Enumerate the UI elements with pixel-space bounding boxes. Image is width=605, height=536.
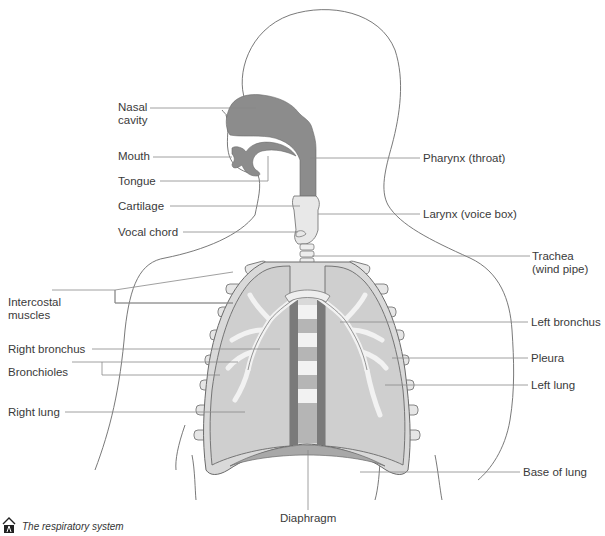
label-trachea-line2: (wind pipe) (532, 263, 588, 276)
label-nasal-line1: Nasal (118, 101, 147, 114)
label-intercostal-muscles: Intercostal muscles (8, 296, 61, 322)
label-left-lung: Left lung (531, 379, 575, 392)
publisher-logo-icon (2, 516, 16, 534)
label-right-bronchus: Right bronchus (8, 343, 85, 356)
label-left-bronchus: Left bronchus (531, 316, 601, 329)
figure-caption: The respiratory system (22, 521, 124, 532)
label-intercostal-line1: Intercostal (8, 296, 61, 309)
label-base-of-lung: Base of lung (523, 466, 587, 479)
label-vocal-chord: Vocal chord (118, 226, 178, 239)
label-larynx: Larynx (voice box) (423, 208, 517, 221)
label-pleura: Pleura (531, 352, 564, 365)
heart-bands (298, 305, 317, 443)
label-bronchioles: Bronchioles (8, 366, 68, 379)
label-nasal-line2: cavity (118, 114, 147, 127)
label-nasal-cavity: Nasal cavity (118, 101, 147, 127)
label-intercostal-line2: muscles (8, 309, 61, 322)
label-right-lung: Right lung (8, 406, 60, 419)
label-trachea: Trachea (wind pipe) (532, 250, 588, 276)
label-pharynx: Pharynx (throat) (423, 152, 505, 165)
label-trachea-line1: Trachea (532, 250, 588, 263)
label-diaphragm: Diaphragm (280, 512, 336, 525)
label-tongue: Tongue (118, 175, 156, 188)
label-cartilage: Cartilage (118, 200, 164, 213)
mouth-shape (232, 142, 296, 176)
label-mouth: Mouth (118, 150, 150, 163)
respiratory-diagram (0, 0, 605, 536)
larynx-shape (293, 196, 320, 244)
